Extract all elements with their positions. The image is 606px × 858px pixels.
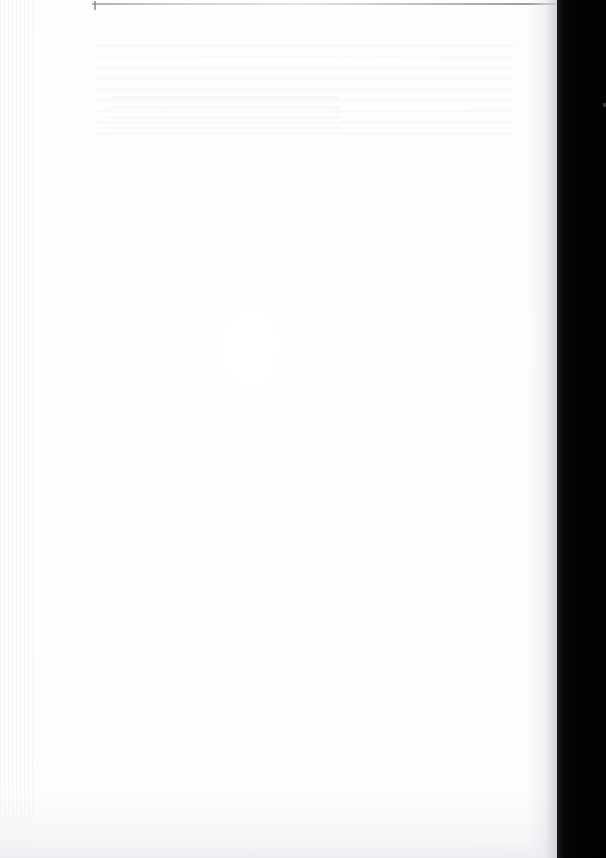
top-edge-rule (92, 3, 557, 5)
scan-banding-artifact (0, 0, 34, 858)
scanned-page (0, 0, 606, 858)
paper-tone-overlay (0, 0, 557, 858)
ghost-text-artifact-secondary (110, 96, 340, 132)
scanner-gutter (557, 0, 606, 858)
edge-speck-icon (94, 1, 96, 10)
gutter-edge-highlight (557, 0, 606, 858)
page-sheet (0, 0, 557, 858)
bottom-edge-shading (0, 788, 557, 858)
ghost-text-artifact (96, 44, 516, 144)
gutter-falloff-shadow (527, 0, 557, 858)
